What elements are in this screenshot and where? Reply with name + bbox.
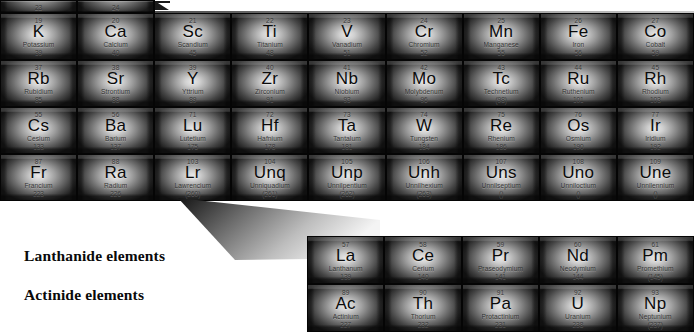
element-cell-lr[interactable]: 103LrLawrencium(260) (154, 154, 231, 201)
atomic-mass: 56 (575, 49, 582, 56)
element-cell-sr[interactable]: 38SrStrontium88 (77, 60, 154, 107)
atomic-mass: 55 (498, 49, 505, 56)
element-cell-cs[interactable]: 55CsCesium133 (0, 107, 77, 154)
element-cell-os[interactable]: 76OsOsmium190 (540, 107, 617, 154)
periodic-table-main-grid: 11NaSodium2312MgMagnesium2419KPotassium3… (0, 0, 694, 201)
element-name: Barium (105, 135, 127, 143)
element-cell-mn[interactable]: 25MnManganese55 (463, 13, 540, 60)
element-name: Iron (572, 41, 584, 49)
atomic-number: 60 (574, 241, 582, 248)
element-cell-ru[interactable]: 44RuRuthenium101 (540, 60, 617, 107)
element-cell-ac[interactable]: 89AcActinium227 (307, 284, 384, 332)
element-cell-sc[interactable]: 21ScScandium45 (154, 13, 231, 60)
atomic-number: 106 (418, 158, 429, 165)
element-cell-pa[interactable]: 91PaProtactinium231 (462, 284, 539, 332)
atomic-number: 75 (497, 111, 505, 118)
element-symbol: Uns (486, 164, 517, 182)
row-lanthanides: 57LaLanthanum13958CeCerium14059PrPraseod… (307, 236, 694, 284)
actinide-elements-label: Actinide elements (24, 286, 144, 304)
element-symbol: Tc (492, 70, 510, 88)
atomic-mass: 178 (264, 143, 275, 150)
atomic-mass: 238 (572, 321, 583, 328)
element-cell-fr[interactable]: 87FrFrancium223 (0, 154, 77, 201)
element-cell-lu[interactable]: 71LuLutetium175 (154, 107, 231, 154)
element-cell-na[interactable]: 11NaSodium23 (0, 0, 77, 13)
row-actinides: 89AcActinium22790ThThorium23291PaProtact… (307, 284, 694, 332)
element-cell-ra[interactable]: 88RaRadium226 (77, 154, 154, 201)
element-cell-la[interactable]: 57LaLanthanum139 (307, 236, 384, 284)
atomic-mass: 226 (110, 190, 121, 197)
element-cell-unq[interactable]: 104UnqUnniquadium(261) (231, 154, 308, 201)
element-cell-ti[interactable]: 22TiTitanium48 (231, 13, 308, 60)
element-symbol: Ir (650, 117, 661, 135)
callout-band (155, 0, 694, 12)
element-cell-fe[interactable]: 26FeIron56 (540, 13, 617, 60)
element-cell-rb[interactable]: 37RbRubidium85 (0, 60, 77, 107)
atomic-mass: 40 (112, 49, 119, 56)
atomic-number: 39 (189, 64, 197, 71)
element-cell-uno[interactable]: 108UnoUnniloctium() (540, 154, 617, 201)
element-cell-ca[interactable]: 20CaCalcium40 (77, 13, 154, 60)
element-cell-unp[interactable]: 105UnpUnnilpentium(262) (308, 154, 385, 201)
element-name: Unnilennium (637, 182, 675, 190)
element-cell-ir[interactable]: 77IrIridium192 (617, 107, 694, 154)
element-symbol: Zr (262, 70, 279, 88)
element-symbol: Hf (261, 117, 279, 135)
element-cell-re[interactable]: 75ReRhenium186 (463, 107, 540, 154)
atomic-mass: 101 (573, 96, 584, 103)
atomic-mass: 39 (35, 49, 42, 56)
atomic-mass: () (653, 190, 657, 197)
atomic-mass: (145) (648, 273, 663, 280)
element-cell-co[interactable]: 27CoCobalt59 (617, 13, 694, 60)
element-symbol: V (341, 23, 353, 41)
element-symbol: Ca (104, 23, 126, 41)
element-cell-nb[interactable]: 41NbNiobium93 (308, 60, 385, 107)
element-cell-w[interactable]: 74WTungsten184 (386, 107, 463, 154)
element-cell-unh[interactable]: 106UnhUnnilhexium(263) (386, 154, 463, 201)
element-cell-k[interactable]: 19KPotassium39 (0, 13, 77, 60)
atomic-number: 56 (112, 111, 120, 118)
element-symbol: Lr (185, 164, 201, 182)
element-cell-th[interactable]: 90ThThorium232 (384, 284, 461, 332)
element-name: Radium (104, 182, 127, 190)
element-symbol: Sr (107, 70, 125, 88)
element-cell-v[interactable]: 23VVanadium51 (308, 13, 385, 60)
element-cell-tc[interactable]: 43TcTechnetium(98) (463, 60, 540, 107)
element-cell-hf[interactable]: 72HfHafnium178 (231, 107, 308, 154)
atomic-number: 91 (497, 289, 505, 296)
atomic-mass: 59 (652, 49, 659, 56)
element-symbol: K (33, 23, 45, 41)
element-cell-uns[interactable]: 107UnsUnnilseptium() (463, 154, 540, 201)
element-cell-zr[interactable]: 40ZrZirconium91 (231, 60, 308, 107)
element-name: Unnilseptium (482, 182, 521, 190)
element-cell-pr[interactable]: 59PrPraseodymium141 (462, 236, 539, 284)
element-cell-cr[interactable]: 24CrChromium52 (386, 13, 463, 60)
element-cell-u[interactable]: 92UUranium238 (539, 284, 616, 332)
element-name: Potassium (23, 41, 55, 49)
atomic-mass: 48 (266, 49, 273, 56)
element-symbol: Ce (412, 247, 434, 265)
element-cell-y[interactable]: 39YYttrium89 (154, 60, 231, 107)
element-name: Iridium (645, 135, 666, 143)
element-name: Scandium (178, 41, 208, 49)
element-cell-mo[interactable]: 42MoMolybdenum96 (386, 60, 463, 107)
atomic-number: 76 (575, 111, 583, 118)
element-symbol: Np (644, 295, 666, 313)
element-symbol: Pm (642, 247, 668, 265)
atomic-mass: 175 (187, 143, 198, 150)
atomic-number: 40 (266, 64, 274, 71)
element-cell-rh[interactable]: 45RhRhodium103 (617, 60, 694, 107)
element-cell-ba[interactable]: 56BaBarium137 (77, 107, 154, 154)
atomic-number: 37 (35, 64, 43, 71)
element-symbol: Nd (567, 247, 589, 265)
element-cell-mg[interactable]: 12MgMagnesium24 (77, 0, 154, 13)
element-cell-np[interactable]: 93NpNeptunium(237) (617, 284, 694, 332)
element-name: Lutetium (180, 135, 206, 143)
element-cell-nd[interactable]: 60NdNeodymium144 (539, 236, 616, 284)
element-cell-ce[interactable]: 58CeCerium140 (384, 236, 461, 284)
element-cell-une[interactable]: 109UneUnnilennium() (617, 154, 694, 201)
element-cell-pm[interactable]: 61PmPromethium(145) (617, 236, 694, 284)
atomic-mass: () (499, 190, 503, 197)
element-cell-ta[interactable]: 73TaTantalum181 (308, 107, 385, 154)
atomic-number: 103 (187, 158, 198, 165)
